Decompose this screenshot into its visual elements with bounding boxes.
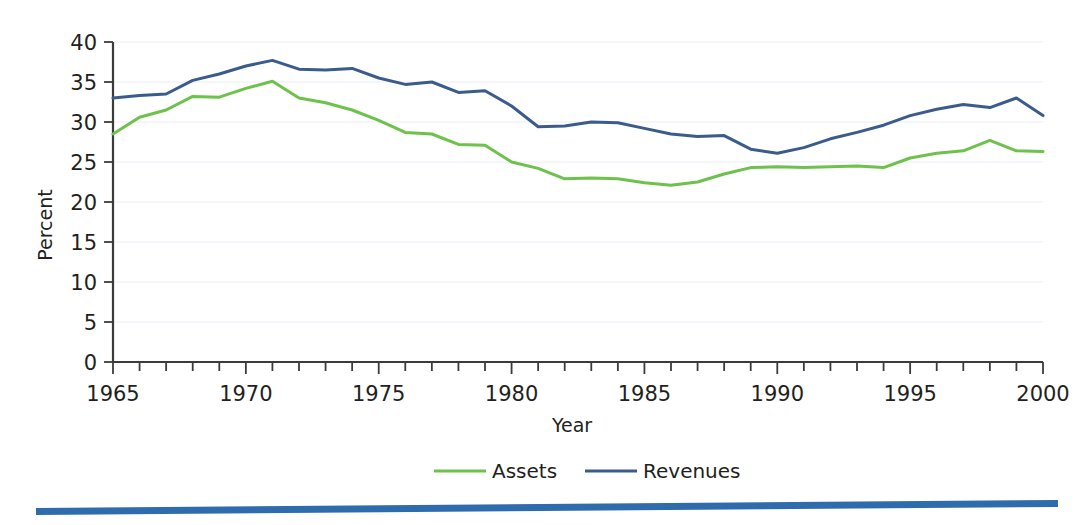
y-tick-label: 30 <box>70 111 97 135</box>
y-tick-label: 35 <box>70 71 97 95</box>
y-axis-tick-labels: 0510152025303540 <box>70 31 97 375</box>
legend-label-assets: Assets <box>492 459 557 483</box>
y-tick-label: 5 <box>84 311 97 335</box>
legend-label-revenues: Revenues <box>643 459 741 483</box>
x-tick-label: 1975 <box>352 382 405 406</box>
series-line-assets <box>113 81 1043 185</box>
footer-accent-bar <box>36 500 1058 515</box>
chart-figure: 0510152025303540 19651970197519801985199… <box>0 0 1080 525</box>
chart-gridlines <box>113 42 1043 322</box>
y-tick-label: 25 <box>70 151 97 175</box>
x-tick-label: 1990 <box>751 382 804 406</box>
x-axis-ticks <box>113 362 1043 374</box>
y-tick-label: 15 <box>70 231 97 255</box>
y-tick-label: 20 <box>70 191 97 215</box>
y-axis-ticks <box>104 42 113 362</box>
series-line-revenues <box>113 60 1043 153</box>
chart-series <box>113 60 1043 185</box>
x-axis-title: Year <box>551 414 592 436</box>
chart-legend: AssetsRevenues <box>434 459 741 483</box>
x-tick-label: 2000 <box>1016 382 1069 406</box>
line-chart: 0510152025303540 19651970197519801985199… <box>0 0 1080 500</box>
y-tick-label: 40 <box>70 31 97 55</box>
x-tick-label: 1980 <box>485 382 538 406</box>
x-tick-label: 1965 <box>86 382 139 406</box>
x-axis-tick-labels: 19651970197519801985199019952000 <box>86 382 1069 406</box>
y-axis-title: Percent <box>34 189 56 261</box>
x-tick-label: 1985 <box>618 382 671 406</box>
y-tick-label: 0 <box>84 351 97 375</box>
x-tick-label: 1970 <box>219 382 272 406</box>
x-tick-label: 1995 <box>883 382 936 406</box>
y-tick-label: 10 <box>70 271 97 295</box>
